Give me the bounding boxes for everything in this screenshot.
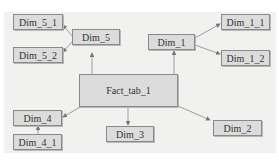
- edge-dim1-dim1_2: [195, 45, 220, 54]
- dim-1-box: Dim_1: [148, 34, 195, 50]
- dim-1-2-box: Dim_1_2: [221, 50, 270, 66]
- dim-5-box: Dim_5: [72, 29, 120, 45]
- dim-1-1-box: Dim_1_1: [221, 14, 270, 30]
- dim-5-2-box: Dim_5_2: [13, 47, 63, 63]
- dim-4-1-box: Dim_4_1: [13, 134, 62, 150]
- edge-dim5-dim5_2: [63, 42, 72, 52]
- edge-fact-dim2: [178, 106, 210, 120]
- dim-2-box: Dim_2: [213, 120, 262, 136]
- dim-5-1-box: Dim_5_1: [13, 14, 63, 30]
- dim-4-box: Dim_4: [13, 110, 62, 126]
- edge-dim5-dim5_1: [63, 25, 72, 36]
- edge-dim1-dim1_1: [195, 24, 220, 38]
- fact-table-box: Fact_tab_1: [79, 74, 178, 107]
- dim-3-box: Dim_3: [106, 126, 154, 142]
- edge-fact-dim4: [63, 106, 82, 117]
